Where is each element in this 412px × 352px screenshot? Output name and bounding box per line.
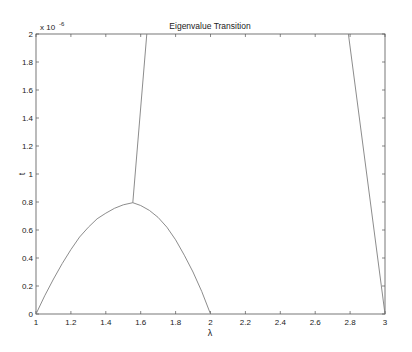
y-tick-label: 1 <box>29 170 34 179</box>
eigenvalue-transition-chart: Eigenvalue Transition x 10 -6 11.21.41.6… <box>0 0 412 352</box>
y-tick-label: 2 <box>29 30 34 39</box>
y-multiplier-exponent: -6 <box>59 21 65 27</box>
x-tick-label: 1.6 <box>135 318 147 327</box>
y-tick-label: 0.4 <box>22 254 34 263</box>
x-tick-label: 3 <box>383 318 388 327</box>
x-tick-label: 2.2 <box>240 318 252 327</box>
x-tick-label: 1.4 <box>100 318 112 327</box>
x-tick-label: 2 <box>208 318 213 327</box>
y-tick-label: 0.2 <box>22 282 34 291</box>
figure-background <box>0 0 412 352</box>
x-tick-label: 2.4 <box>275 318 287 327</box>
y-multiplier-label: x 10 <box>40 23 56 32</box>
chart-title: Eigenvalue Transition <box>169 21 251 31</box>
x-tick-label: 1 <box>34 318 39 327</box>
y-tick-label: 1.2 <box>22 142 34 151</box>
y-tick-label: 1.6 <box>22 86 34 95</box>
x-tick-label: 2.8 <box>345 318 357 327</box>
x-axis-label: λ <box>208 328 213 338</box>
y-tick-label: 0.6 <box>22 226 34 235</box>
y-tick-label: 1.8 <box>22 58 34 67</box>
y-tick-label: 0.8 <box>22 198 34 207</box>
y-tick-label: 1.4 <box>22 114 34 123</box>
x-tick-label: 1.8 <box>170 318 182 327</box>
x-tick-label: 2.6 <box>310 318 322 327</box>
y-tick-label: 0 <box>29 310 34 319</box>
x-tick-label: 1.2 <box>65 318 77 327</box>
